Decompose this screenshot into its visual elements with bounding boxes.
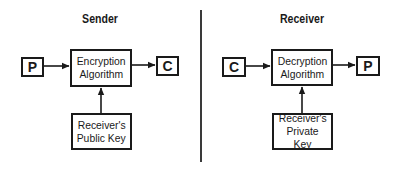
flow-arrows <box>0 0 399 170</box>
